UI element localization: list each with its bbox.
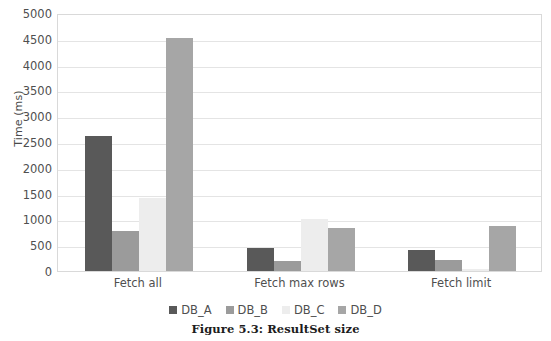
bar-db_b-fetch-max-rows (274, 261, 301, 271)
y-tick-label: 1500 (8, 190, 52, 200)
bar-db_c-fetch-all (139, 198, 166, 271)
bar-db_c-fetch-max-rows (301, 219, 328, 271)
y-tick-label: 2000 (8, 164, 52, 174)
bar-db_d-fetch-limit (489, 226, 516, 271)
y-tick-label: 3500 (8, 86, 52, 96)
figure-resultset-size: Time (ms) 500045004000350030002500200015… (0, 0, 551, 341)
legend-label: DB_C (294, 303, 325, 317)
y-tick-label: 500 (8, 241, 52, 251)
legend-label: DB_B (238, 303, 268, 317)
bars-layer (58, 15, 541, 271)
figure-caption: Figure 5.3: ResultSet size (0, 322, 551, 336)
legend-swatch-icon (169, 306, 177, 314)
legend-label: DB_A (181, 303, 211, 317)
y-tick-label: 2500 (8, 138, 52, 148)
y-tick-label: 4500 (8, 35, 52, 45)
y-tick-label: 5000 (8, 9, 52, 19)
bar-db_a-fetch-all (85, 136, 112, 271)
bar-db_b-fetch-limit (435, 260, 462, 271)
legend-swatch-icon (226, 306, 234, 314)
y-tick-label: 1000 (8, 215, 52, 225)
bar-db_b-fetch-all (112, 231, 139, 271)
legend-label: DB_D (350, 303, 381, 317)
legend-item-db_d[interactable]: DB_D (338, 303, 381, 317)
bar-db_d-fetch-all (166, 38, 193, 271)
bar-db_d-fetch-max-rows (328, 228, 355, 271)
bar-db_c-fetch-limit (462, 269, 489, 271)
y-axis-tick-labels: 5000450040003500300025002000150010005000 (8, 0, 52, 341)
legend-item-db_c[interactable]: DB_C (282, 303, 325, 317)
x-axis-category-labels: Fetch allFetch max rowsFetch limit (57, 276, 542, 292)
x-tick-label: Fetch all (57, 276, 219, 290)
bar-db_a-fetch-max-rows (247, 248, 274, 271)
y-tick-label: 4000 (8, 61, 52, 71)
legend-item-db_b[interactable]: DB_B (226, 303, 268, 317)
legend-swatch-icon (338, 306, 346, 314)
plot-area (57, 14, 542, 272)
legend-item-db_a[interactable]: DB_A (169, 303, 211, 317)
x-tick-label: Fetch limit (380, 276, 542, 290)
x-tick-label: Fetch max rows (219, 276, 381, 290)
y-tick-label: 3000 (8, 112, 52, 122)
legend-swatch-icon (282, 306, 290, 314)
bar-db_a-fetch-limit (408, 250, 435, 271)
chart-legend: DB_ADB_BDB_CDB_D (0, 303, 551, 317)
y-tick-label: 0 (8, 267, 52, 277)
